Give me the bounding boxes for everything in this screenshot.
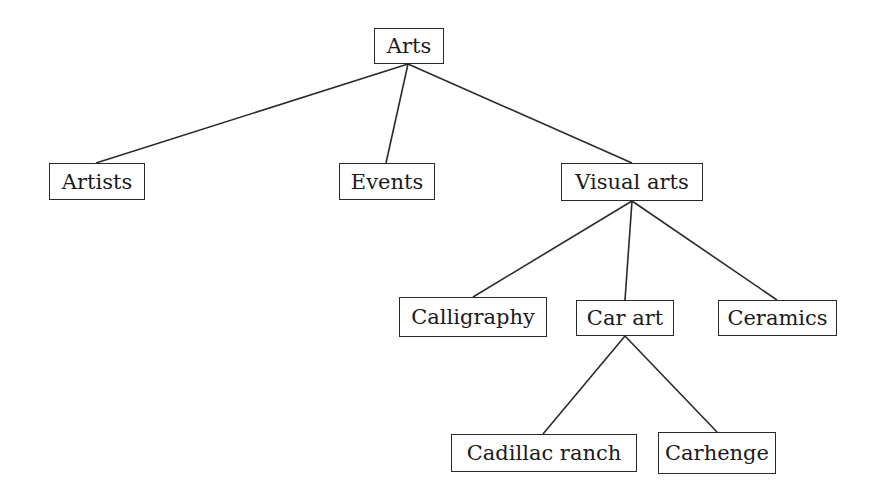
node-label: Ceramics: [727, 306, 827, 330]
node-label: Artists: [62, 170, 132, 194]
node-label: Calligraphy: [411, 305, 535, 329]
node-carhenge: Carhenge: [658, 432, 776, 474]
edge-visual-arts-calligraphy: [473, 201, 632, 297]
edge-arts-visual-arts: [408, 64, 632, 163]
edge-visual-arts-car-art: [625, 201, 632, 300]
node-label: Car art: [587, 306, 663, 330]
edge-car-art-cadillac-ranch: [543, 336, 625, 434]
edge-car-art-carhenge: [625, 336, 717, 432]
node-label: Arts: [387, 34, 431, 58]
tree-edges: [0, 0, 896, 502]
node-label: Carhenge: [665, 441, 769, 465]
node-label: Visual arts: [575, 170, 689, 194]
node-arts: Arts: [374, 28, 444, 64]
node-label: Events: [351, 170, 423, 194]
node-cadillac-ranch: Cadillac ranch: [451, 434, 637, 472]
node-ceramics: Ceramics: [718, 300, 837, 336]
node-label: Cadillac ranch: [467, 441, 622, 465]
node-car-art: Car art: [576, 300, 674, 336]
edge-arts-events: [386, 64, 408, 163]
edge-arts-artists: [96, 64, 408, 163]
node-artists: Artists: [49, 163, 145, 200]
node-events: Events: [339, 163, 435, 200]
node-visual-arts: Visual arts: [561, 163, 703, 201]
node-calligraphy: Calligraphy: [399, 297, 547, 337]
edge-visual-arts-ceramics: [632, 201, 777, 300]
